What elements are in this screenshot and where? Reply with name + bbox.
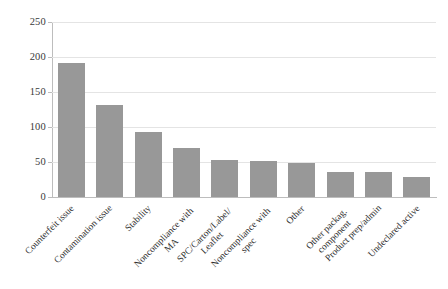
bar: [135, 132, 162, 197]
bar: [250, 161, 277, 197]
bar: [211, 160, 238, 197]
x-tick-label-line: Stability: [123, 203, 153, 233]
bar-chart: 050100150200250 Counterfeit issueContami…: [0, 0, 448, 289]
gridline: [52, 197, 436, 198]
bar: [365, 172, 392, 197]
x-tick-label: Stability: [123, 203, 153, 233]
y-tick-label: 100: [30, 122, 46, 133]
bar: [403, 177, 430, 197]
bar: [173, 148, 200, 197]
bar: [327, 172, 354, 197]
x-tick-labels: Counterfeit issueContamination issueStab…: [0, 199, 448, 289]
bar: [96, 105, 123, 197]
y-tick-label: 50: [35, 157, 46, 168]
plot-area: [52, 22, 436, 197]
y-tick-mark: [48, 197, 52, 198]
x-tick-label-line: Other: [284, 203, 307, 226]
bars-group: [52, 22, 436, 197]
x-tick-label: Other: [284, 203, 307, 226]
y-tick-label: 150: [30, 87, 46, 98]
bar: [58, 63, 85, 197]
y-tick-label: 200: [30, 52, 46, 63]
bar: [288, 163, 315, 197]
y-tick-label: 250: [30, 17, 46, 28]
